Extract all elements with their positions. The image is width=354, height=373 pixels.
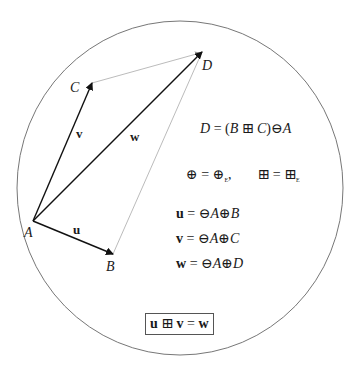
eq-text: = ( [210, 121, 230, 136]
eq-text: = [198, 167, 213, 182]
vector-v [33, 83, 92, 221]
ominus-icon: = ⊖ [184, 206, 211, 221]
eq-a: A [210, 231, 219, 246]
oplus-icon: ⊕ [218, 231, 230, 246]
equation-d-definition: D = (B ⊞ C)⊖A [200, 121, 291, 137]
ominus-icon: = ⊖ [183, 231, 210, 246]
vector-label-v: v [76, 127, 83, 140]
oplus-icon: ⊕ [219, 206, 231, 221]
ominus-icon: = ⊖ [186, 256, 213, 271]
vector-label-w: w [130, 130, 139, 143]
eq-vec-v: v [177, 316, 184, 331]
eq-c: C [230, 231, 239, 246]
eq-vec-v: v [176, 231, 183, 246]
point-label-a: A [24, 226, 33, 240]
eq-d: D [200, 121, 210, 136]
eq-b: B [230, 121, 239, 136]
point-label-b: B [106, 260, 115, 274]
eq-text: = [184, 316, 199, 331]
subscript-e: E [296, 177, 300, 183]
boxplus-e-icon: ⊞ [284, 167, 296, 182]
boxplus-icon: ⊞ [238, 121, 257, 136]
equation-v-definition: v = ⊖A⊕C [176, 231, 239, 247]
eq-text: = [269, 167, 284, 182]
oplus-icon: ⊕ [186, 167, 198, 182]
eq-a: A [210, 206, 219, 221]
eq-d: D [233, 256, 243, 271]
comma: , [228, 167, 232, 182]
equation-w-definition: w = ⊖A⊕D [176, 256, 243, 272]
equation-operations: ⊕ = ⊕E,⊞ = ⊞E [186, 167, 300, 188]
eq-vec-w: w [176, 256, 186, 271]
vector-label-u: u [73, 223, 80, 236]
eq-vec-w: w [198, 316, 208, 331]
equation-u-definition: u = ⊖A⊕B [176, 206, 239, 222]
ominus-icon: )⊖ [266, 121, 282, 136]
eq-vec-u: u [150, 316, 158, 331]
eq-c: C [257, 121, 266, 136]
boxplus-icon: ⊞ [158, 316, 177, 331]
edge-b-d [113, 52, 202, 254]
oplus-icon: ⊕ [221, 256, 233, 271]
eq-b: B [231, 206, 240, 221]
point-label-d: D [202, 59, 212, 73]
eq-a: A [283, 121, 292, 136]
point-label-c: C [70, 81, 79, 95]
boxplus-icon: ⊞ [258, 167, 270, 182]
boxed-gyroparallelogram-law: u ⊞ v = w [145, 313, 214, 335]
eq-vec-u: u [176, 206, 184, 221]
oplus-e-icon: ⊕ [213, 167, 225, 182]
edge-c-d [92, 53, 200, 83]
